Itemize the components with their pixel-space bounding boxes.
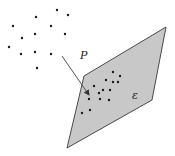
- label-p: P: [79, 49, 88, 62]
- projection-diagram: P ε: [0, 0, 175, 156]
- point: [34, 33, 36, 35]
- point: [12, 25, 14, 27]
- point: [105, 79, 107, 81]
- point: [81, 112, 83, 114]
- point: [56, 9, 58, 11]
- point: [21, 37, 23, 39]
- point: [93, 85, 95, 87]
- point: [109, 89, 111, 91]
- point: [64, 33, 66, 35]
- point: [99, 98, 101, 100]
- plane-epsilon: [67, 27, 166, 148]
- point: [117, 81, 119, 83]
- point: [50, 53, 52, 55]
- point: [89, 109, 91, 111]
- point: [35, 16, 37, 18]
- point: [36, 67, 38, 69]
- point: [8, 46, 10, 48]
- free-point-cloud: [8, 9, 69, 69]
- label-epsilon: ε: [132, 89, 138, 102]
- point: [98, 92, 100, 94]
- point: [88, 98, 90, 100]
- point: [67, 14, 69, 16]
- point: [102, 89, 104, 91]
- point: [112, 81, 114, 83]
- point: [34, 51, 36, 53]
- point: [20, 53, 22, 55]
- point: [112, 71, 114, 73]
- point: [50, 25, 52, 27]
- point: [108, 99, 110, 101]
- point: [119, 75, 121, 77]
